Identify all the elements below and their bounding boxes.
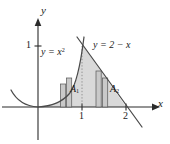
parabola-equation-text: y = x bbox=[41, 46, 62, 57]
y-axis-label: y bbox=[41, 5, 46, 16]
region-label-a2: A2 bbox=[110, 84, 119, 95]
region-label-a1: A1 bbox=[70, 84, 79, 95]
parabola-exponent: 2 bbox=[62, 46, 65, 53]
y-axis-arrow bbox=[35, 18, 42, 26]
x-axis-label: x bbox=[158, 98, 163, 109]
x-tick-label-2: 2 bbox=[123, 111, 128, 121]
region-a1-subscript: 1 bbox=[76, 87, 79, 94]
figure-container: y x 1 1 2 y = x2 y = 2 − x A1 A2 bbox=[0, 0, 170, 144]
riemann-rect-a1-1 bbox=[61, 84, 66, 107]
region-a2-subscript: 2 bbox=[116, 87, 119, 94]
parabola-equation-label: y = x2 bbox=[41, 47, 65, 57]
y-tick-label-1: 1 bbox=[26, 40, 31, 50]
riemann-rect-a2-2 bbox=[103, 78, 108, 107]
riemann-rect-a2-1 bbox=[96, 71, 101, 107]
line-equation-label: y = 2 − x bbox=[93, 40, 130, 50]
graph-canvas bbox=[0, 0, 170, 144]
x-tick-label-1: 1 bbox=[79, 111, 84, 121]
